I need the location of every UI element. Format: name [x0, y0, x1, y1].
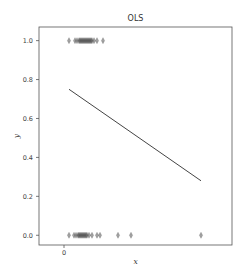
- ols-chart: OLS0.00.20.40.60.81.00xy: [0, 0, 248, 280]
- x-axis-label: x: [133, 257, 138, 266]
- y-tick-label: 0.2: [23, 193, 33, 201]
- plot-frame: [39, 27, 232, 245]
- y-tick-label: 0.4: [23, 154, 33, 162]
- y-tick-label: 0.8: [23, 76, 33, 84]
- y-axis-label: y: [12, 133, 21, 139]
- chart-title: OLS: [128, 14, 144, 23]
- x-tick-label: 0: [62, 249, 66, 257]
- y-tick-label: 0.6: [23, 115, 33, 123]
- y-tick-label: 0.0: [23, 232, 33, 240]
- y-tick-label: 1.0: [23, 37, 33, 45]
